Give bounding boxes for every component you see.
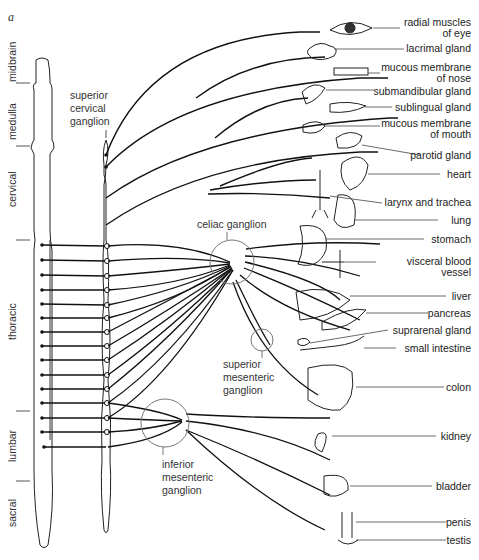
suprarenal-sketch	[298, 338, 310, 345]
label-sublingual-gland: sublingual gland	[395, 102, 471, 113]
sublingual-sketch	[330, 102, 366, 112]
vessel-sketch	[322, 250, 344, 278]
label-larynx-and-trachea: larynx and trachea	[385, 197, 471, 208]
label-colon: colon	[446, 382, 471, 393]
penis-testis-sketch	[338, 512, 358, 544]
region-lumbar: lumbar	[6, 430, 18, 462]
label-heart: heart	[447, 169, 471, 180]
label-mucous-membrane-of-mouth: mucous membraneof mouth	[381, 118, 471, 140]
label-lung: lung	[451, 215, 471, 226]
kidney-sketch	[315, 433, 326, 452]
label-kidney: kidney	[441, 431, 471, 442]
region-medulla: medulla	[6, 103, 18, 140]
label-radial-muscles-of-eye: radial musclesof eye	[404, 17, 471, 39]
label-submandibular-gland: submandibular gland	[374, 86, 471, 97]
region-thoracic: thoracic	[6, 303, 18, 340]
superior-cervical-ganglion-label: superior cervical ganglion	[70, 89, 110, 128]
label-testis: testis	[446, 535, 471, 546]
label-bladder: bladder	[436, 481, 471, 492]
lung-sketch	[334, 195, 355, 228]
stomach-sketch	[298, 226, 326, 266]
nose-sketch	[334, 68, 368, 75]
sympathetic-chain	[101, 140, 110, 533]
label-mucous-membrane-of-nose: mucous membraneof nose	[381, 62, 471, 84]
celiac-ganglion-label: celiac ganglion	[197, 218, 266, 231]
colon-sketch	[308, 365, 353, 410]
inferior-mesenteric-ganglion-circle	[141, 399, 189, 447]
mouth-sketch	[303, 122, 325, 133]
label-visceral-blood-vessel: visceral bloodvessel	[407, 256, 471, 278]
sympathetic-nervous-system-diagram	[0, 0, 479, 560]
trachea-sketch	[312, 170, 328, 218]
label-parotid-gland: parotid gland	[410, 150, 471, 161]
region-cervical: cervical	[6, 171, 18, 207]
region-midbrain: midbrain	[6, 42, 18, 82]
parotid-sketch	[336, 132, 362, 148]
label-liver: liver	[452, 291, 471, 302]
label-pancreas: pancreas	[428, 308, 471, 319]
label-penis: penis	[446, 517, 471, 528]
figure-label: a	[8, 10, 14, 25]
label-lacrimal-gland: lacrimal gland	[406, 43, 471, 54]
label-stomach: stomach	[431, 234, 471, 245]
superior-mesenteric-ganglion-label: superior mesenteric ganglion	[223, 358, 274, 397]
region-sacral: sacral	[6, 499, 18, 527]
submandibular-sketch	[302, 85, 325, 104]
inferior-mesenteric-ganglion-label: inferior mesenteric ganglion	[162, 458, 213, 497]
label-suprarenal-gland: suprarenal gland	[393, 325, 471, 336]
label-small-intestine: small intestine	[404, 343, 471, 354]
heart-sketch	[341, 157, 368, 190]
